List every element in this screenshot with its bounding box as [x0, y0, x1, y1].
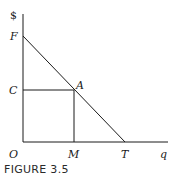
point-label-m: M [68, 149, 79, 160]
point-label-c: C [9, 85, 17, 96]
origin-label: O [9, 149, 18, 160]
point-label-f: F [10, 31, 18, 42]
y-axis-label: $ [10, 10, 17, 21]
diagram-canvas [0, 0, 178, 182]
point-label-t: T [121, 149, 128, 160]
figure-3-5: $ F C A O M T q FIGURE 3.5 [0, 0, 178, 182]
figure-caption: FIGURE 3.5 [4, 163, 69, 176]
point-label-a: A [76, 80, 84, 91]
x-axis-label: q [160, 149, 167, 160]
